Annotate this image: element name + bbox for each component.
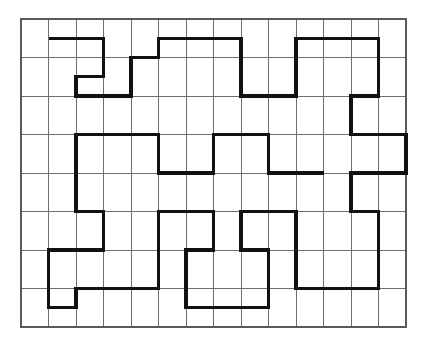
grid-maze-svg [0, 0, 426, 356]
figure-canvas [0, 0, 426, 356]
